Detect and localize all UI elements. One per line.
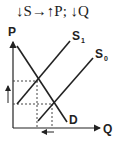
demand-label: D (69, 113, 78, 127)
s0-subscript: 0 (104, 55, 108, 62)
p-axis-label: P (8, 25, 16, 39)
supply-demand-diagram: P Q D S 1 S 0 (0, 0, 118, 142)
s0-label: S (95, 47, 103, 61)
s1-subscript: 1 (81, 37, 85, 44)
s1-label: S (72, 29, 80, 43)
q-axis-label: Q (103, 122, 112, 136)
demand-curve (17, 46, 67, 122)
